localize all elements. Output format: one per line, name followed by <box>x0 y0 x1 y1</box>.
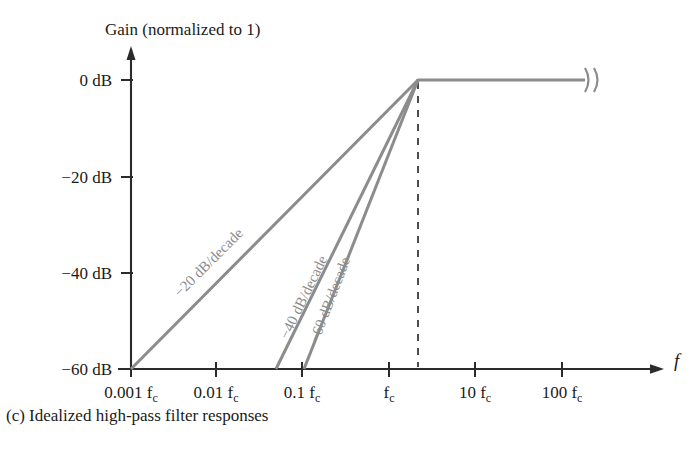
x-tick-value-0: 0.001 f <box>104 383 153 402</box>
x-tick-label-1: 0.01 fc <box>194 383 239 405</box>
svg-text:fc: fc <box>384 383 395 405</box>
x-tick-value-2: 0.1 f <box>284 383 316 402</box>
x-tick-sub-3: c <box>389 391 394 405</box>
x-axis <box>118 364 664 374</box>
x-tick-sub-1: c <box>233 391 238 405</box>
x-tick-value-5: 100 f <box>542 383 578 402</box>
y-tick-label-2: −40 dB <box>61 264 112 283</box>
figure-container: Gain (normalized to 1) f 0 dB −20 dB −40… <box>0 0 700 450</box>
svg-text:0.1 fc: 0.1 fc <box>284 383 321 405</box>
bode-plot-svg: Gain (normalized to 1) f 0 dB −20 dB −40… <box>0 0 700 450</box>
x-tick-sub-4: c <box>486 391 491 405</box>
x-tick-label-4: 10 fc <box>459 383 491 405</box>
x-tick-value-1: 0.01 f <box>194 383 234 402</box>
x-tick-sub-2: c <box>315 391 320 405</box>
x-tick-label-5: 100 fc <box>542 383 583 405</box>
x-tick-sub-5: c <box>577 391 582 405</box>
x-tick-label-2: 0.1 fc <box>284 383 321 405</box>
response-curve-20db <box>131 80 585 369</box>
y-axis-title: Gain (normalized to 1) <box>105 20 260 39</box>
svg-text:10 fc: 10 fc <box>459 383 491 405</box>
x-tick-label-0: 0.001 fc <box>104 383 158 405</box>
y-tick-label-1: −20 dB <box>61 168 112 187</box>
svg-text:0.01 fc: 0.01 fc <box>194 383 239 405</box>
svg-text:0.001 fc: 0.001 fc <box>104 383 158 405</box>
svg-text:100 fc: 100 fc <box>542 383 583 405</box>
y-axis <box>127 46 136 369</box>
figure-caption: (c) Idealized high-pass filter responses <box>6 406 268 426</box>
axis-break-icon <box>585 68 598 92</box>
y-tick-label-3: −60 dB <box>61 360 112 379</box>
y-tick-label-0: 0 dB <box>79 71 112 90</box>
x-axis-symbol: f <box>674 350 682 371</box>
x-tick-value-4: 10 f <box>459 383 486 402</box>
x-tick-sub-0: c <box>152 391 157 405</box>
x-tick-label-3: fc <box>384 383 395 405</box>
